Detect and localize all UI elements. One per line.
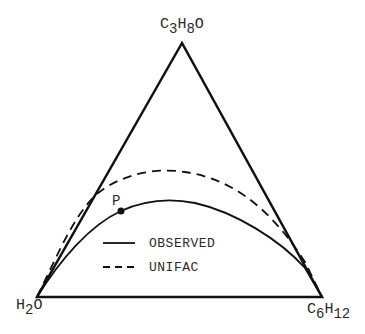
legend-unifac-label: UNIFAC	[149, 261, 199, 274]
label-sub: 12	[333, 306, 350, 322]
label-part: H	[16, 297, 25, 314]
label-part: O	[195, 16, 204, 33]
ternary-diagram	[0, 0, 365, 334]
vertex-label-bottom-right: C6H12	[307, 302, 350, 317]
unifac-curve	[37, 171, 322, 297]
ternary-triangle	[37, 43, 322, 297]
label-part: O	[33, 297, 42, 314]
label-sub: 8	[186, 21, 194, 37]
label-part: C	[160, 16, 169, 33]
label-part: C	[307, 301, 316, 318]
vertex-label-bottom-left: H2O	[16, 298, 42, 313]
point-p-label: P	[112, 194, 120, 208]
legend-observed-label: OBSERVED	[149, 237, 215, 250]
vertex-label-top: C3H8O	[160, 17, 204, 32]
